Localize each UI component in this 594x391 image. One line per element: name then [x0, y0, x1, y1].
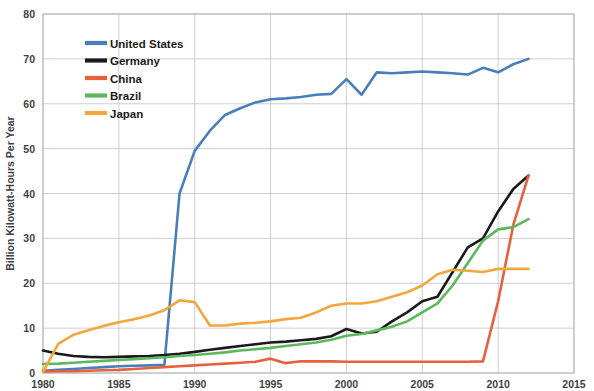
series-lines	[43, 59, 528, 372]
y-tick-label: 80	[23, 8, 35, 20]
y-axis-tick-labels: 01020304050607080	[23, 8, 35, 379]
series-line-germany	[43, 176, 528, 358]
y-tick-label: 30	[23, 232, 35, 244]
x-tick-label: 2010	[486, 378, 510, 390]
y-tick-label: 40	[23, 188, 35, 200]
x-tick-label: 2000	[335, 378, 359, 390]
x-tick-label: 1980	[31, 378, 55, 390]
x-tick-label: 1990	[183, 378, 207, 390]
legend-label-japan: Japan	[110, 108, 143, 120]
y-tick-label: 50	[23, 143, 35, 155]
y-tick-label: 70	[23, 53, 35, 65]
y-tick-label: 20	[23, 277, 35, 289]
legend-label-germany: Germany	[110, 55, 160, 67]
x-tick-label: 1995	[259, 378, 283, 390]
legend-label-brazil: Brazil	[110, 90, 141, 102]
chart-container: 01020304050607080 1980198519901995200020…	[0, 0, 594, 391]
legend-label-china: China	[110, 73, 143, 85]
y-tick-label: 10	[23, 322, 35, 334]
y-tick-label: 60	[23, 98, 35, 110]
line-chart: 01020304050607080 1980198519901995200020…	[0, 0, 594, 391]
chart-legend: United StatesGermanyChinaBrazilJapan	[85, 38, 184, 120]
x-axis-tick-labels: 19801985199019952000200520102015	[31, 378, 586, 390]
x-tick-label: 1985	[107, 378, 131, 390]
legend-label-united-states: United States	[110, 38, 184, 50]
x-tick-label: 2015	[562, 378, 586, 390]
y-axis-title: Billion Kilowatt-Hours Per Year	[4, 116, 16, 270]
x-tick-label: 2005	[411, 378, 435, 390]
